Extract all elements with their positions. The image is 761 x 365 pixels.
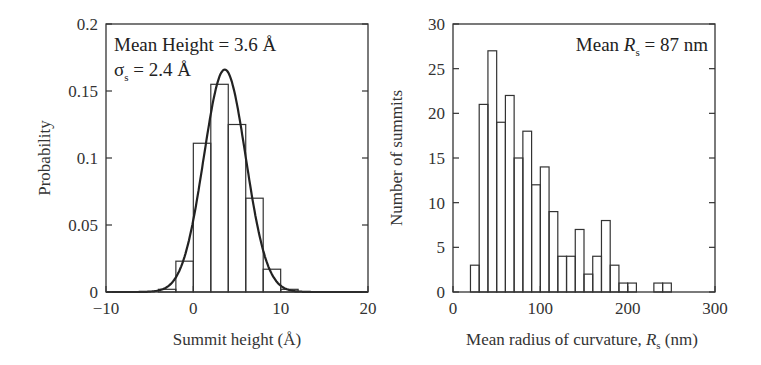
y-tick-label: 5 [437, 238, 446, 257]
y-tick-label: 0 [437, 283, 446, 302]
summit-height-histogram: 00.050.10.150.2 −1001020 Mean Height = 3… [35, 15, 377, 349]
y-tick-label: 0.2 [77, 15, 98, 34]
histogram-bar [176, 261, 193, 292]
x-tick-label: 100 [528, 299, 554, 318]
x-tick-label: 10 [272, 299, 289, 318]
figure: 00.050.10.150.2 −1001020 Mean Height = 3… [0, 0, 761, 365]
x-tick-label: 200 [615, 299, 641, 318]
y-axis-label: Probability [35, 120, 54, 196]
histogram-bar [567, 256, 576, 292]
histogram-bar [470, 265, 479, 292]
histogram-bars [158, 84, 298, 292]
y-tick-label: 0.05 [68, 216, 98, 235]
x-axis-ticks: 0100200300 [449, 286, 728, 318]
histogram-bar [575, 229, 584, 292]
histogram-bar [628, 283, 637, 292]
x-axis-label: Summit height (Å) [173, 330, 301, 349]
radius-of-curvature-histogram: 051015202530 0100200300 Mean Rs = 87 nm … [387, 15, 728, 351]
y-tick-label: 10 [428, 194, 445, 213]
histogram-bar [593, 256, 602, 292]
histogram-bar [523, 131, 532, 292]
histogram-bar [619, 283, 628, 292]
x-tick-label: 300 [702, 299, 728, 318]
histogram-bar [228, 125, 245, 293]
y-axis-label: Number of summits [387, 90, 406, 226]
x-tick-label: 20 [360, 299, 377, 318]
y-tick-label: 0.1 [77, 149, 98, 168]
y-tick-label: 30 [428, 15, 445, 34]
histogram-bar [532, 185, 541, 292]
histogram-bar [654, 283, 663, 292]
histogram-bar [211, 84, 228, 292]
y-tick-label: 0.15 [68, 82, 98, 101]
sigma-annotation: σs = 2.4 Å [114, 59, 191, 83]
mean-height-annotation: Mean Height = 3.6 Å [114, 34, 276, 55]
x-tick-label: 0 [449, 299, 458, 318]
histogram-bar [505, 95, 514, 292]
x-tick-label: −10 [93, 299, 120, 318]
histogram-bar [488, 51, 497, 292]
y-tick-label: 15 [428, 149, 445, 168]
histogram-bars [470, 51, 671, 292]
histogram-bar [514, 158, 523, 292]
x-axis-ticks: −1001020 [93, 286, 377, 318]
x-axis-label: Mean radius of curvature, Rs (nm) [466, 330, 698, 351]
histogram-bar [497, 122, 506, 292]
y-axis-ticks: 051015202530 [428, 15, 715, 302]
gaussian-fit-curve [106, 70, 368, 292]
histogram-bar [540, 167, 549, 292]
histogram-bar [610, 265, 619, 292]
x-tick-label: 0 [189, 299, 198, 318]
histogram-bar [663, 283, 672, 292]
histogram-bar [584, 274, 593, 292]
histogram-bar [549, 212, 558, 292]
histogram-bar [601, 221, 610, 292]
histogram-bar [558, 256, 567, 292]
y-tick-label: 25 [428, 60, 445, 79]
mean-rs-annotation: Mean Rs = 87 nm [576, 34, 708, 58]
histogram-bar [479, 104, 488, 292]
y-tick-label: 20 [428, 104, 445, 123]
